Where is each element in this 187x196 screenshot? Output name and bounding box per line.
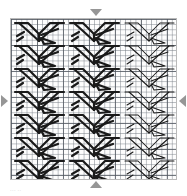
repeat-marker-right-icon[interactable] bbox=[179, 95, 186, 107]
chart-caption: ··· ·· bbox=[10, 187, 22, 194]
pattern-chart-viewer: ··· ·· bbox=[0, 0, 187, 196]
motif-layer bbox=[11, 19, 176, 179]
repeat-marker-top-icon[interactable] bbox=[90, 9, 102, 16]
chart-plate[interactable] bbox=[10, 18, 177, 180]
repeat-marker-left-icon[interactable] bbox=[1, 95, 8, 107]
chevron-motif-svg bbox=[11, 19, 177, 180]
repeat-marker-bottom-icon[interactable] bbox=[90, 181, 102, 188]
